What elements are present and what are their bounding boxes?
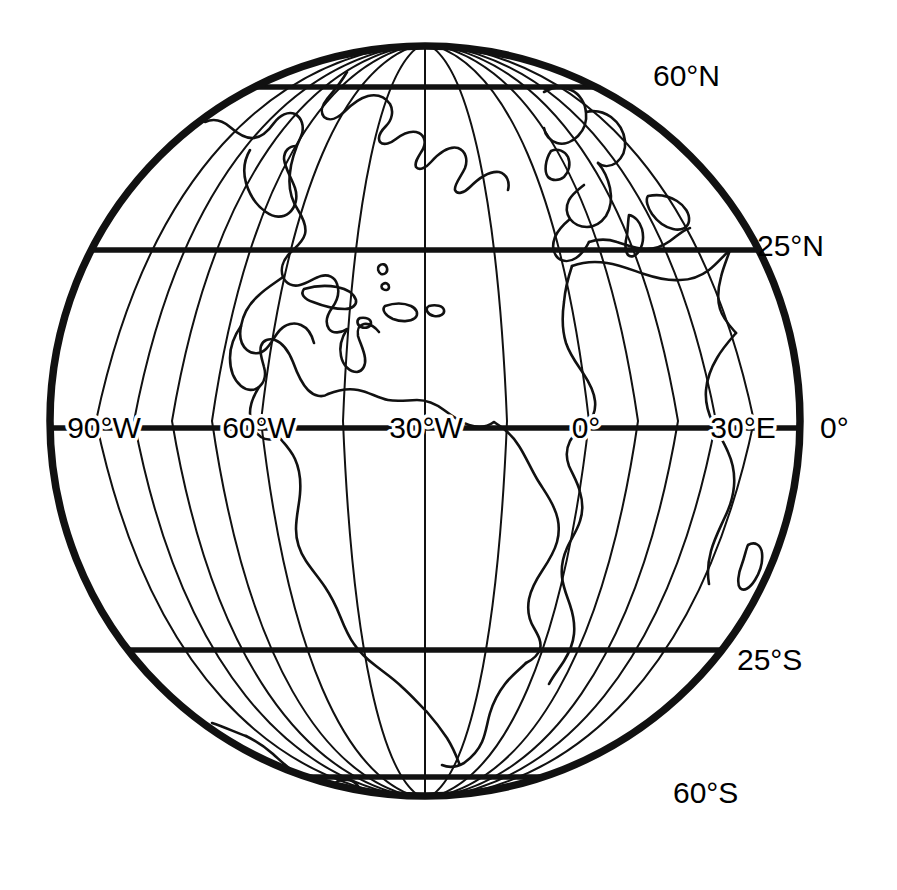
latitude-label-60n: 60°N — [653, 59, 720, 92]
longitude-label-30e: 30°E — [710, 411, 775, 444]
latitude-label-0: 0° — [820, 411, 849, 444]
latitude-label-60s: 60°S — [673, 776, 738, 809]
longitude-label-0: 0° — [572, 411, 601, 444]
globe-map-svg: 90°W 60°W 30°W 0° 30°E 60°N 25°N 0° 25°S… — [0, 0, 897, 890]
figure-background — [0, 0, 897, 890]
globe-figure: 90°W 60°W 30°W 0° 30°E 60°N 25°N 0° 25°S… — [0, 0, 897, 890]
longitude-label-90w: 90°W — [67, 411, 141, 444]
latitude-label-25s: 25°S — [737, 643, 802, 676]
latitude-label-25n: 25°N — [757, 229, 824, 262]
longitude-label-60w: 60°W — [222, 411, 296, 444]
longitude-label-30w: 30°W — [389, 411, 463, 444]
